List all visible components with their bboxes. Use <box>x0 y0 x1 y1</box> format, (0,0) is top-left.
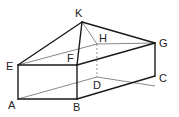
edge-GK <box>82 22 155 43</box>
label-E: E <box>6 60 13 72</box>
edge-FK <box>77 22 82 65</box>
edge-AD <box>18 77 97 99</box>
label-F: F <box>67 52 74 64</box>
label-C: C <box>159 72 167 84</box>
prism-pyramid-diagram: K H G E F C D A B <box>0 0 179 117</box>
label-D: D <box>93 79 101 91</box>
label-B: B <box>73 101 80 113</box>
label-H: H <box>99 32 107 44</box>
label-G: G <box>159 37 168 49</box>
edge-EH <box>18 44 97 65</box>
label-K: K <box>75 7 83 19</box>
label-A: A <box>8 99 16 111</box>
